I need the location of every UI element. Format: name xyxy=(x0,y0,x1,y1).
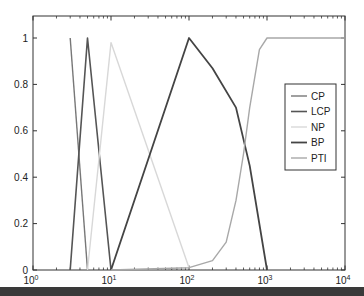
legend-label-bp: BP xyxy=(311,137,325,148)
y-tick-label: 0.2 xyxy=(14,218,28,229)
x-tick-label: 101 xyxy=(101,274,116,286)
legend-label-np: NP xyxy=(311,122,325,133)
bottom-divider-bar xyxy=(0,287,364,296)
legend-label-lcp: LCP xyxy=(311,106,331,117)
y-tick-label: 0.4 xyxy=(14,172,28,183)
x-tick-label: 102 xyxy=(179,274,194,286)
legend: CPLCPNPBPPTI xyxy=(285,84,336,170)
y-tick-label: 0 xyxy=(22,265,28,276)
legend-label-pti: PTI xyxy=(311,153,327,164)
y-tick-label: 1 xyxy=(22,33,28,44)
x-tick-label: 104 xyxy=(335,274,350,286)
legend-label-cp: CP xyxy=(311,91,325,102)
y-tick-label: 0.8 xyxy=(14,79,28,90)
x-tick-label: 100 xyxy=(23,274,38,286)
y-tick-label: 0.6 xyxy=(14,125,28,136)
line-chart: 00.20.40.60.81 100101102103104 CPLCPNPBP… xyxy=(0,0,364,296)
x-tick-label: 103 xyxy=(257,274,272,286)
